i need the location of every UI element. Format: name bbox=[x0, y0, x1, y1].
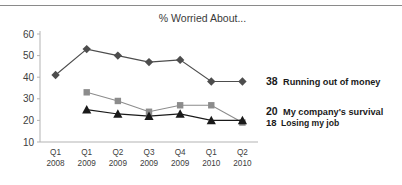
x-tick-label-year: 2010 bbox=[202, 159, 221, 168]
y-axis-ticks: 102030405060 bbox=[23, 29, 40, 148]
series-line bbox=[87, 110, 243, 121]
line-chart-plot: 102030405060 Q12008Q12009Q22009Q32009Q42… bbox=[0, 0, 402, 185]
annotation-label: My company's survival bbox=[283, 107, 383, 117]
series-triangle bbox=[82, 105, 247, 124]
data-point-marker bbox=[176, 56, 184, 64]
x-tick-label-year: 2009 bbox=[109, 159, 128, 168]
x-tick-label-quarter: Q3 bbox=[144, 148, 155, 157]
data-point-marker bbox=[208, 102, 214, 108]
data-point-marker bbox=[114, 51, 122, 59]
y-tick-label: 50 bbox=[23, 50, 35, 61]
x-tick-label-quarter: Q1 bbox=[81, 148, 92, 157]
x-tick-label-quarter: Q1 bbox=[206, 148, 217, 157]
series-layer bbox=[51, 45, 247, 126]
annotation-label: Losing my job bbox=[281, 118, 339, 128]
x-tick-label-year: 2009 bbox=[171, 159, 190, 168]
x-tick-label-year: 2008 bbox=[46, 159, 65, 168]
x-tick-label-year: 2009 bbox=[140, 159, 159, 168]
annotation-label: Running out of money bbox=[283, 77, 381, 87]
data-point-marker bbox=[84, 89, 90, 95]
y-tick-label: 40 bbox=[23, 72, 35, 83]
annotations-layer: 38Running out of money20My company's sur… bbox=[266, 75, 383, 128]
x-tick-label-quarter: Q2 bbox=[237, 148, 248, 157]
data-point-marker bbox=[115, 98, 121, 104]
y-tick-label: 20 bbox=[23, 115, 35, 126]
annotation-value: 18 bbox=[266, 117, 277, 128]
x-tick-label-year: 2009 bbox=[78, 159, 97, 168]
annotation-value: 38 bbox=[266, 75, 278, 87]
data-point-marker bbox=[177, 102, 183, 108]
y-tick-label: 10 bbox=[23, 137, 35, 148]
series-diamond bbox=[51, 45, 246, 86]
y-tick-label: 30 bbox=[23, 93, 35, 104]
data-point-marker bbox=[238, 77, 246, 85]
data-point-marker bbox=[207, 77, 215, 85]
x-tick-label-quarter: Q4 bbox=[175, 148, 186, 157]
x-tick-label-quarter: Q1 bbox=[50, 148, 61, 157]
data-point-marker bbox=[82, 105, 91, 114]
annotation-value: 20 bbox=[266, 105, 278, 117]
x-tick-label-quarter: Q2 bbox=[112, 148, 123, 157]
data-point-marker bbox=[176, 109, 185, 118]
data-point-marker bbox=[145, 58, 153, 66]
chart-container: % Worried About... 102030405060 Q12008Q1… bbox=[0, 0, 402, 185]
series-line bbox=[87, 92, 243, 122]
x-tick-label-year: 2010 bbox=[233, 159, 252, 168]
y-tick-label: 60 bbox=[23, 29, 35, 40]
x-axis-ticks: Q12008Q12009Q22009Q32009Q42009Q12010Q220… bbox=[46, 148, 252, 168]
